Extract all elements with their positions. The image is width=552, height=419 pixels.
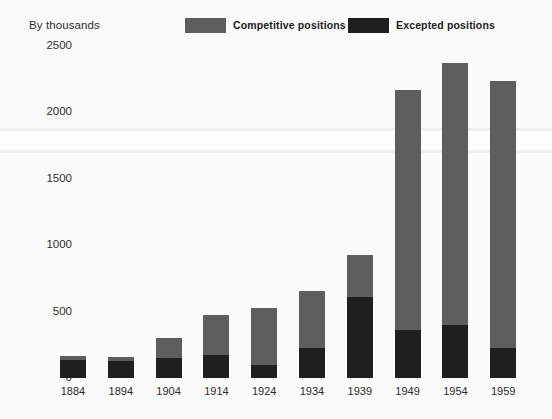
bar-group[interactable] [347,255,373,378]
bar-segment-excepted[interactable] [156,358,182,378]
bar-segment-excepted[interactable] [60,360,86,378]
bar-segment-excepted[interactable] [395,330,421,378]
plot-area: 05001000150020002500 1884189419041914192… [0,0,552,419]
bar-segment-excepted[interactable] [442,325,468,378]
bar-segment-excepted[interactable] [347,297,373,378]
bar-group[interactable] [442,63,468,378]
y-tick-label: 1500 [28,173,72,185]
bar-group[interactable] [108,357,134,378]
bar-segment-competitive[interactable] [203,315,229,355]
bar-segment-competitive[interactable] [395,90,421,330]
bar-segment-competitive[interactable] [490,81,516,348]
bar-group[interactable] [156,338,182,378]
y-tick-label: 2000 [28,106,72,118]
y-tick-label: 2500 [28,40,72,52]
y-tick-label: 500 [28,306,72,318]
bar-group[interactable] [490,81,516,378]
x-tick-label: 1959 [473,385,533,397]
chart-container: By thousands Competitive positions Excep… [0,0,552,419]
bar-segment-competitive[interactable] [251,308,277,365]
bar-segment-excepted[interactable] [490,348,516,378]
bar-group[interactable] [203,315,229,378]
y-tick-label: 1000 [28,239,72,251]
bar-segment-competitive[interactable] [299,291,325,348]
bar-segment-competitive[interactable] [442,63,468,325]
bar-segment-excepted[interactable] [251,365,277,378]
bar-group[interactable] [60,356,86,378]
bar-segment-excepted[interactable] [299,348,325,378]
bar-segment-excepted[interactable] [203,355,229,378]
bar-segment-competitive[interactable] [156,338,182,358]
bar-segment-excepted[interactable] [108,361,134,378]
bar-segment-competitive[interactable] [347,255,373,297]
bar-group[interactable] [395,90,421,378]
bar-group[interactable] [251,308,277,378]
bar-group[interactable] [299,291,325,378]
